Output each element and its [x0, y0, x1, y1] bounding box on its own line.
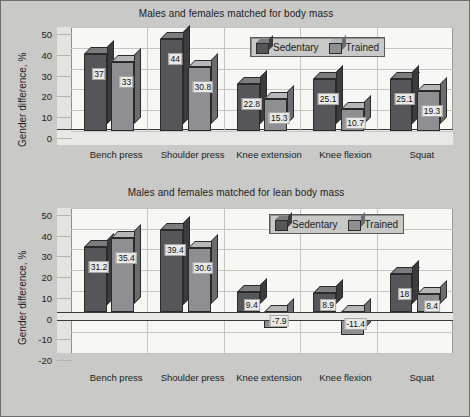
- data-label: 30.8: [193, 81, 214, 93]
- y-tick-label: 20: [41, 272, 52, 283]
- legend-swatch-trained-icon: [329, 43, 342, 54]
- gridline: [71, 332, 453, 333]
- x-tick-label: Knee flexion: [319, 149, 371, 160]
- chart-title-bottom: Males and females matched for lean body …: [1, 187, 470, 198]
- legend-bottom: Sedentary Trained: [269, 214, 404, 234]
- y-tick-label: -20: [38, 355, 52, 366]
- data-label: 19.3: [422, 105, 443, 117]
- data-label: 15.3: [269, 112, 290, 124]
- figure-panel: Males and females matched for body mass …: [0, 0, 470, 417]
- gridline-depth: [57, 138, 72, 139]
- legend-label-trained: Trained: [346, 42, 380, 53]
- bar: [84, 247, 107, 312]
- plot-side-wall: [57, 208, 72, 353]
- data-label: 31.2: [89, 261, 110, 273]
- legend-label-sedentary: Sedentary: [292, 219, 338, 230]
- bar: [84, 54, 107, 131]
- y-tick-label: 50: [41, 210, 52, 221]
- x-tick-label: Bench press: [90, 149, 143, 160]
- legend-item-trained: Trained: [348, 217, 399, 231]
- data-label: 25.1: [394, 93, 415, 105]
- gridline-depth: [57, 236, 72, 237]
- data-label: 25.1: [318, 93, 339, 105]
- data-label: 18: [398, 288, 411, 300]
- bar-front-face: [188, 248, 211, 311]
- legend-swatch-trained-icon: [348, 220, 361, 231]
- gridline: [71, 27, 453, 28]
- bar-front-face: [84, 54, 107, 131]
- gridline-depth: [57, 360, 72, 361]
- legend-item-sedentary: Sedentary: [256, 40, 319, 54]
- data-label: 39.4: [165, 244, 186, 256]
- gridline-depth: [57, 117, 72, 118]
- bar-front-face: [188, 67, 211, 131]
- x-tick-label: Bench press: [90, 372, 143, 383]
- data-label: -11.4: [344, 318, 367, 330]
- legend-item-trained: Trained: [329, 40, 380, 54]
- gridline: [71, 208, 453, 209]
- gridline-depth: [57, 215, 72, 216]
- x-tick-label: Shoulder press: [161, 372, 225, 383]
- y-tick-label: 10: [41, 112, 52, 123]
- category-divider: [147, 27, 148, 131]
- zero-floor-plane: [57, 312, 453, 321]
- x-tick-label: Squat: [409, 149, 434, 160]
- gridline-depth: [57, 96, 72, 97]
- data-label: 33: [120, 76, 133, 88]
- gridline: [71, 131, 453, 132]
- x-tick-label: Knee flexion: [319, 372, 371, 383]
- data-label: 8.4: [424, 300, 440, 312]
- bar-front-face: [160, 230, 183, 312]
- bar: [188, 67, 211, 131]
- category-divider: [224, 27, 225, 131]
- gridline: [71, 353, 453, 354]
- data-label: 44: [169, 53, 182, 65]
- legend-label-sedentary: Sedentary: [273, 42, 319, 53]
- bar-front-face: [111, 62, 134, 131]
- gridline-depth: [57, 256, 72, 257]
- y-tick-label: 20: [41, 91, 52, 102]
- plot-side-wall: [57, 27, 72, 131]
- y-tick-label: 40: [41, 49, 52, 60]
- y-axis-label-bottom: Gender difference, %: [17, 251, 28, 345]
- gridline-depth: [57, 34, 72, 35]
- bar: [188, 248, 211, 311]
- bar: [313, 79, 336, 131]
- bar-front-face: [111, 238, 134, 311]
- gridline-depth: [57, 277, 72, 278]
- bar-side-face: [134, 224, 141, 304]
- gridline-depth: [57, 298, 72, 299]
- gridline-depth: [57, 76, 72, 77]
- bar-front-face: [390, 79, 413, 131]
- gridline-depth: [57, 55, 72, 56]
- y-tick-label: 30: [41, 70, 52, 81]
- bar: [111, 238, 134, 311]
- y-tick-label: 0: [47, 133, 52, 144]
- chart-title-top: Males and females matched for body mass: [1, 8, 470, 19]
- category-divider: [147, 208, 148, 353]
- y-tick-label: 0: [47, 313, 52, 324]
- legend-label-trained: Trained: [365, 219, 399, 230]
- legend-swatch-sedentary-icon: [275, 220, 288, 231]
- bar-front-face: [84, 247, 107, 312]
- data-label: 10.7: [345, 117, 366, 129]
- y-axis-label-top: Gender difference, %: [17, 53, 28, 147]
- data-label: 37: [92, 68, 105, 80]
- legend-item-sedentary: Sedentary: [275, 217, 338, 231]
- x-tick-label: Knee extension: [236, 149, 302, 160]
- chart-top: Males and females matched for body mass …: [1, 1, 470, 181]
- bar-front-face: [313, 79, 336, 131]
- x-tick-label: Knee extension: [236, 372, 302, 383]
- category-divider: [224, 208, 225, 353]
- data-label: 9.4: [244, 299, 260, 311]
- bar-side-face: [134, 48, 141, 124]
- y-tick-label: 30: [41, 251, 52, 262]
- bar-side-face: [440, 77, 447, 124]
- data-label: 8.9: [320, 299, 336, 311]
- bar: [390, 79, 413, 131]
- data-label: 30.6: [193, 262, 214, 274]
- bar: [111, 62, 134, 131]
- y-tick-label: 40: [41, 230, 52, 241]
- gridline-depth: [57, 339, 72, 340]
- x-tick-label: Squat: [409, 372, 434, 383]
